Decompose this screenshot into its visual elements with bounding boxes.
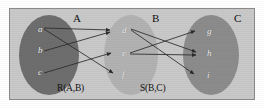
node-b: b [38,45,43,55]
set-label-a: A [73,12,81,24]
node-g: g [207,26,212,36]
relation-label-r: R(A,B) [57,83,84,93]
relation-label-s: S(B,C) [140,83,165,93]
set-label-c: C [234,12,241,24]
node-c: c [38,67,42,77]
set-label-b: B [152,12,159,24]
node-a: a [38,24,43,34]
relation-composition-figure: A B C R(A,B) S(B,C) a b c d e f g h i [0,0,264,108]
node-i: i [207,70,210,80]
node-d: d [122,25,127,35]
node-e: e [122,48,126,58]
node-h: h [207,48,212,58]
node-f: f [122,69,125,79]
